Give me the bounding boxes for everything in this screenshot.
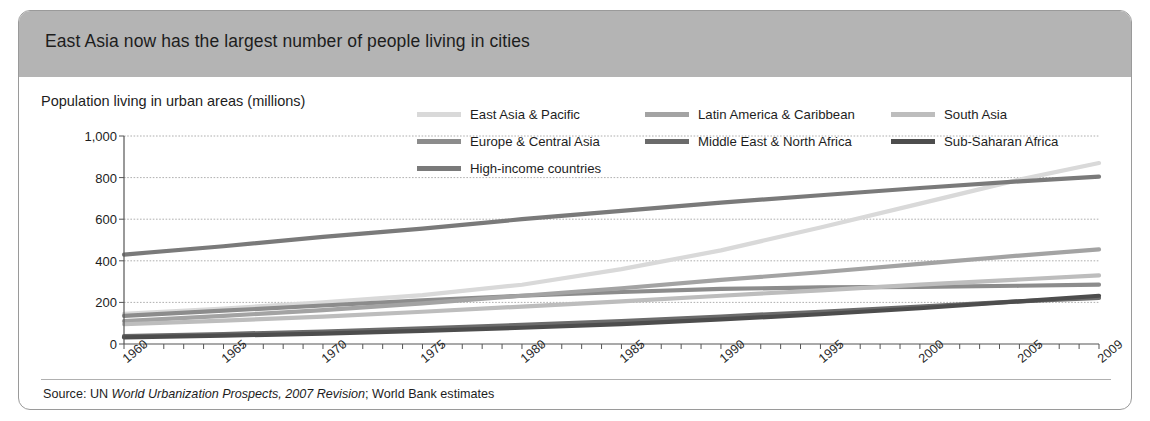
y-axis-labels: 02004006008001,000 [59,136,117,344]
chart-subtitle: Population living in urban areas (millio… [41,93,305,109]
source-note: Source: UN World Urbanization Prospects,… [43,387,494,401]
source-suffix: ; World Bank estimates [365,387,494,401]
legend-swatch [891,112,935,117]
figure-frame: East Asia now has the largest number of … [18,10,1132,410]
legend-label: South Asia [944,107,1007,122]
plot-svg [124,136,1099,344]
y-axis-tick-label: 1,000 [84,129,117,144]
source-prefix: Source: UN [43,387,112,401]
y-axis-tick-label: 800 [95,170,117,185]
plot-area [124,136,1099,344]
legend-swatch [417,112,461,117]
legend-item: Latin America & Caribbean [645,107,855,122]
legend-label: Latin America & Caribbean [698,107,855,122]
legend-label: East Asia & Pacific [470,107,580,122]
series-line [124,177,1099,255]
y-axis-tick-label: 600 [95,212,117,227]
y-axis-tick-label: 200 [95,295,117,310]
x-axis-labels: 1960196519701975198019851990199520002005… [124,351,1124,391]
series-line [124,275,1099,324]
y-axis-tick-label: 400 [95,253,117,268]
source-italic-title: World Urbanization Prospects, 2007 Revis… [112,387,365,401]
legend-item: South Asia [891,107,1007,122]
x-axis-tick-label: 2009 [1095,337,1125,366]
y-axis-tick-label: 0 [110,337,117,352]
chart-title: East Asia now has the largest number of … [45,31,530,52]
legend-swatch [645,112,689,117]
legend-item: East Asia & Pacific [417,107,580,122]
source-divider [41,379,1111,380]
